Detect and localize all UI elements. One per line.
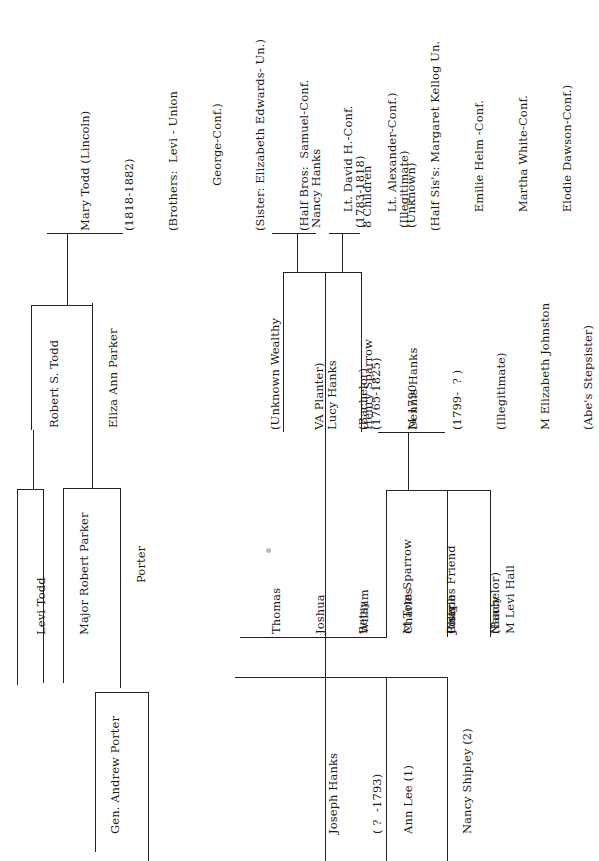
dennis-hanks-connector [408, 432, 409, 490]
children-baseline [240, 637, 386, 638]
scan-speck [266, 548, 271, 553]
parker-bracket [63, 488, 120, 489]
lucy-hanks-bracket [283, 272, 361, 273]
dennis-hanks-baseline [378, 432, 445, 433]
dennis-hanks-block: Dennis Hanks (1799- ? ) (Illegitimate) M… [377, 303, 599, 430]
nancy-shipley-label: Nancy Shipley (2) [431, 728, 504, 834]
mary-todd-connector [67, 233, 68, 305]
joseph-hanks-bracket [235, 677, 448, 678]
nancy-hanks-connector [297, 233, 298, 272]
eight-children-connector [342, 233, 343, 272]
porter-label: Porter [105, 546, 178, 583]
levi-todd-bracket [17, 489, 43, 490]
mary-todd-baseline [47, 233, 123, 234]
gen-porter-bracket [95, 692, 149, 693]
eliza-parker-label: Eliza Ann Parker [77, 328, 150, 428]
eight-children-block: 8 Children (Unknown) [331, 162, 448, 228]
friend-bracket [386, 490, 490, 491]
levi-hall-label: M Levi Hall [474, 565, 547, 634]
gen-porter-label: Gen. Andrew Porter [79, 716, 152, 834]
todd-parents-bracket [31, 305, 93, 306]
robert-todd-connector [33, 430, 34, 489]
eight-children-baseline [329, 233, 360, 234]
nancy-hanks-baseline [272, 233, 316, 234]
